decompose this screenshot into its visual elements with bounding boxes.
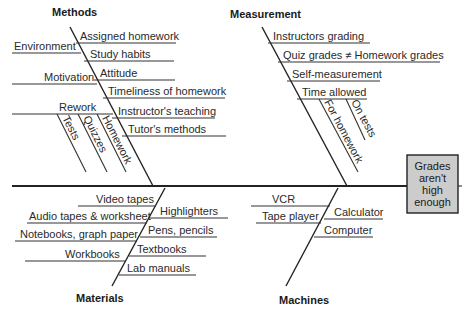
effect-line-2: aren't (419, 172, 446, 184)
subcause-on-tests: On tests (349, 97, 379, 139)
cause-rework: Rework (59, 101, 97, 113)
category-label-methods: Methods (52, 6, 97, 18)
cause-highlighters: Highlighters (160, 205, 219, 217)
effect-line-3: high (422, 184, 443, 196)
effect-line-1: Grades (414, 160, 451, 172)
cause-tutors-methods: Tutor's methods (128, 123, 207, 135)
cause-vcr: VCR (272, 193, 295, 205)
cause-notebooks-graph-paper: Notebooks, graph paper (20, 228, 138, 240)
cause-quiz-vs-homework-grades: Quiz grades ≠ Homework grades (283, 49, 444, 61)
category-methods: Methods Assigned homework Study habits A… (12, 6, 227, 186)
cause-calculator: Calculator (334, 206, 384, 218)
effect-box: Grades aren't high enough (407, 155, 458, 213)
category-label-machines: Machines (279, 294, 329, 306)
cause-tape-player: Tape player (262, 210, 319, 222)
cause-lab-manuals: Lab manuals (127, 262, 190, 274)
cause-assigned-homework: Assigned homework (80, 30, 180, 42)
cause-attitude: Attitude (100, 67, 137, 79)
cause-video-tapes: Video tapes (96, 193, 154, 205)
cause-workbooks: Workbooks (65, 248, 120, 260)
cause-instructors-teaching: Instructor's teaching (118, 105, 216, 117)
cause-environment: Environment (14, 40, 76, 52)
category-materials: Materials Video tapes Audio tapes & work… (15, 188, 228, 304)
cause-time-allowed: Time allowed (302, 86, 366, 98)
cause-computer: Computer (324, 224, 373, 236)
category-label-materials: Materials (76, 292, 124, 304)
cause-instructors-grading: Instructors grading (273, 30, 364, 42)
category-machines: Machines VCR Tape player Calculator Comp… (251, 188, 384, 306)
cause-timeliness-of-homework: Timeliness of homework (108, 85, 227, 97)
cause-study-habits: Study habits (90, 48, 151, 60)
cause-textbooks: Textbooks (137, 243, 187, 255)
cause-motivation: Motivation (44, 71, 94, 83)
cause-self-measurement: Self-measurement (292, 68, 382, 80)
cause-audio-tapes-worksheet: Audio tapes & worksheet (29, 210, 151, 222)
cause-pens-pencils: Pens, pencils (148, 224, 214, 236)
fishbone-diagram: Grades aren't high enough Methods Assign… (0, 0, 465, 318)
category-label-measurement: Measurement (230, 8, 301, 20)
effect-line-4: enough (414, 196, 451, 208)
